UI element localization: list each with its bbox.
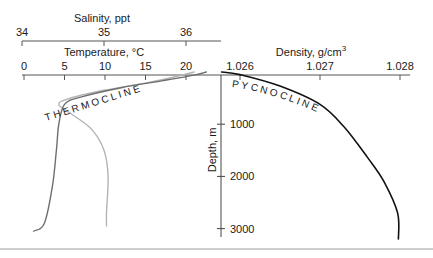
density-axis-title: Density, g/cm3 [276, 44, 347, 58]
pycnocline-label: PYCNOCLINE [232, 78, 323, 115]
temperature-tick-label: 5 [61, 60, 67, 72]
density-series-line [222, 72, 399, 239]
salinity-axis-title: Salinity, ppt [74, 12, 130, 24]
density-tick-label: 1.028 [386, 60, 414, 72]
depth-axis-title: Depth, m [206, 128, 218, 173]
temperature-tick-label: 0 [21, 60, 27, 72]
temperature-axis-title: Temperature, °C [64, 46, 144, 58]
salinity-axis: Salinity, ppt 343536 [16, 12, 221, 46]
temperature-tick-label: 20 [180, 60, 192, 72]
salinity-tick-label: 35 [98, 26, 110, 38]
density-tick-label: 1.026 [226, 60, 254, 72]
density-unit-superscript: 3 [342, 44, 347, 53]
salinity-tick-label: 36 [180, 26, 192, 38]
thermocline-label: THERMOCLINE [43, 82, 143, 123]
temperature-tick-label: 15 [139, 60, 151, 72]
depth-tick-label: 2000 [230, 170, 254, 182]
depth-axis: Depth, m 100020003000 [206, 75, 254, 237]
temperature-axis: Temperature, °C 05101520 [21, 46, 221, 80]
depth-tick-label: 3000 [230, 223, 254, 235]
salinity-tick-label: 34 [16, 26, 28, 38]
density-tick-label: 1.027 [306, 60, 334, 72]
temperature-tick-label: 10 [99, 60, 111, 72]
ocean-profile-chart: Salinity, ppt 343536 Temperature, °C 051… [0, 0, 433, 258]
depth-tick-label: 1000 [230, 118, 254, 130]
density-axis: Density, g/cm3 1.0261.0271.028 [221, 44, 414, 80]
